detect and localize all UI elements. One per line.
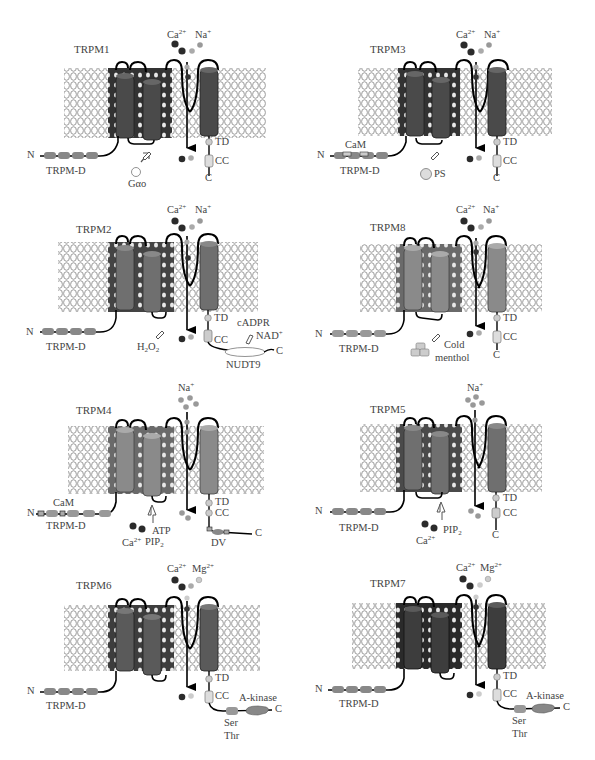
panel-title: TRPM5 [370,404,405,415]
formula-sub: 2 [160,541,164,549]
td-label: TD [215,497,229,508]
panel-title: TRPM3 [370,44,405,55]
panel-trpm7: TRPM7 Ca2+ Mg2+ N TRPM-D TD CC C A-kinas… [298,565,595,755]
charge: + [495,203,499,211]
ion-label-calcium: Ca2+ [456,562,475,574]
channel-diagram [298,565,595,760]
cc-label: CC [503,689,517,700]
ion-text: Ca [122,537,134,548]
c-terminus-label: C [205,173,212,184]
charge: 2+ [468,28,475,36]
channel-diagram [298,0,595,190]
ser-label: Ser [224,718,238,729]
modulator-cold-label: Cold [444,340,464,351]
charge: 2+ [468,203,475,211]
modulator-atp-label: ATP [152,526,171,537]
formula-part: PIP [145,536,160,547]
charge: + [207,203,211,211]
n-terminus-label: N [315,329,323,340]
panel-trpm1: TRPM1 Ca2+ Na+ N TRPM-D TD CC C Gαo [0,0,297,190]
channel-diagram [0,0,297,190]
charge: 2+ [179,203,186,211]
cam-label: CaM [53,498,74,509]
n-terminus-label: N [315,506,323,517]
ion-label-calcium: Ca2+ [167,29,186,41]
td-label: TD [215,137,229,148]
ion-text: Ca [167,563,179,574]
td-label: TD [503,671,517,682]
ion-label-sodium: Na+ [483,204,499,216]
ion-label-calcium: Ca2+ [167,204,186,216]
c-terminus-label: C [493,173,500,184]
panel-trpm8: TRPM8 Ca2+ Na+ N TRPM-D TD CC C Cold men… [298,190,595,380]
cc-label: CC [214,335,228,346]
panel-trpm4: TRPM4 Na+ CaM N TRPM-D TD CC C DV ATP Ca… [0,380,297,570]
panel-title: TRPM4 [76,405,111,416]
panel-title: TRPM2 [76,224,111,235]
thr-label: Thr [224,731,239,742]
c-terminus-label: C [275,704,282,715]
n-terminus-label: N [27,150,35,161]
cc-label: CC [503,508,517,519]
ion-label-calcium: Ca2+ [456,204,475,216]
ion-label-calcium: Ca2+ [456,29,475,41]
nudt9-domain-label: NUDT9 [226,360,260,371]
ion-label-sodium: Na+ [484,29,500,41]
ion-text: Na [483,204,495,215]
trpm-domain-label: TRPM-D [340,166,380,177]
td-label: TD [503,137,517,148]
charge: + [190,381,194,389]
trpm-domain-label: TRPM-D [339,523,379,534]
ion-text: Na [195,29,207,40]
formula-part: O [148,341,156,352]
td-label: TD [503,313,517,324]
formula-sub: 2 [458,529,462,537]
ion-label-magnesium: Mg2+ [480,562,502,574]
td-label: TD [503,493,517,504]
ser-label: Ser [512,716,526,727]
panel-title: TRPM1 [74,44,109,55]
channel-diagram [298,380,595,570]
n-terminus-label: N [317,150,325,161]
trpm-domain-label: TRPM-D [46,342,86,353]
trpm-domain-label: TRPM-D [339,344,379,355]
ligand-nad-label: NAD+ [256,330,283,342]
panel-title: TRPM7 [370,578,405,589]
formula-sub: 2 [156,346,160,354]
td-label: TD [214,313,228,324]
ion-text: Na [178,382,190,393]
n-terminus-label: N [26,327,34,338]
ion-text: Ca [167,29,179,40]
modulator-label: Gαo [128,179,146,190]
trpm-domain-label: TRPM-D [46,701,86,712]
modulator-calcium-label: Ca2+ [416,535,435,547]
charge: 2+ [179,562,186,570]
ion-text: Na [467,382,479,393]
cc-label: CC [215,691,229,702]
cc-label: CC [215,508,229,519]
modulator-h2o2-label: H2O2 [137,342,159,354]
ion-text: Ca [456,29,468,40]
n-terminus-label: N [27,686,35,697]
dv-domain-label: DV [211,538,226,549]
ion-label-sodium: Na+ [178,382,194,394]
cc-label: CC [503,332,517,343]
charge: 2+ [134,536,141,544]
charge: 2+ [207,562,214,570]
panel-trpm6: TRPM6 Ca2+ Mg2+ N TRPM-D TD CC C A-kinas… [0,565,297,755]
c-terminus-label: C [255,528,262,539]
ion-text: Ca [456,562,468,573]
c-terminus-label: C [492,530,499,541]
modulator-calcium-label: Ca2+ [122,537,141,549]
panel-trpm2: TRPM2 Ca2+ Na+ N TRPM-D TD CC C cADPR NA… [0,190,297,380]
charge: 2+ [179,28,186,36]
panel-title: TRPM6 [76,580,111,591]
ion-text: Ca [456,204,468,215]
a-kinase-label: A-kinase [526,691,564,702]
ion-text: Na [195,204,207,215]
trpm-domain-label: TRPM-D [339,699,379,710]
n-terminus-label: N [27,508,35,519]
ion-text: Ca [416,535,428,546]
modulator-menthol-label: menthol [435,353,469,364]
td-label: TD [215,673,229,684]
